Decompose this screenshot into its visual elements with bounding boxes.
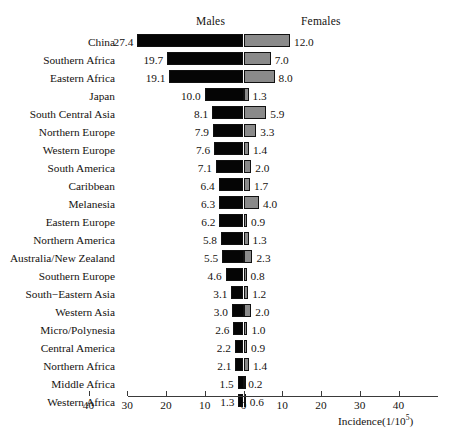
category-label: Micro/Polynesia xyxy=(0,323,115,337)
female-value-label: 8.0 xyxy=(279,71,293,85)
female-value-label: 0.8 xyxy=(251,269,265,283)
axis-title: Incidence(1/105) xyxy=(338,415,413,427)
male-value-label: 8.1 xyxy=(148,107,208,121)
female-bar-segment xyxy=(244,268,247,281)
male-bar-segment xyxy=(219,214,243,227)
bar-row: China27.412.0 xyxy=(0,33,451,51)
male-value-label: 2.6 xyxy=(169,323,229,337)
bar-rows-container: China27.412.0Southern Africa19.77.0Easte… xyxy=(0,33,451,411)
male-bar-segment xyxy=(235,340,244,353)
bar-row: Middle Africa1.50.2 xyxy=(0,375,451,393)
male-bar-segment xyxy=(219,178,244,191)
bar-row: Japan10.01.3 xyxy=(0,87,451,105)
female-value-label: 2.0 xyxy=(255,305,269,319)
female-value-label: 4.0 xyxy=(263,197,277,211)
category-label: Japan xyxy=(0,89,115,103)
male-bar-segment xyxy=(167,52,243,65)
female-bar-segment xyxy=(244,88,249,101)
female-bar-segment xyxy=(244,196,260,209)
category-label: Northern Europe xyxy=(0,125,115,139)
male-bar-segment xyxy=(137,34,243,47)
axis-title-close: ) xyxy=(410,415,414,427)
category-label: South−Eastern Asia xyxy=(0,287,115,301)
category-label: Western Asia xyxy=(0,305,115,319)
bar-row: Australia/New Zealand5.52.3 xyxy=(0,249,451,267)
bar-row: Northern Europe7.93.3 xyxy=(0,123,451,141)
series-header-females: Females xyxy=(301,15,341,27)
bar-row: Central America2.20.9 xyxy=(0,339,451,357)
male-bar-segment xyxy=(213,124,244,137)
male-value-label: 19.1 xyxy=(105,71,165,85)
male-bar-segment xyxy=(232,304,244,317)
bar-row: Southern Africa19.77.0 xyxy=(0,51,451,69)
bar-row: Western Asia3.02.0 xyxy=(0,303,451,321)
female-bar-segment xyxy=(244,214,247,227)
axis-title-exponent: 5 xyxy=(406,413,410,422)
female-value-label: 2.0 xyxy=(255,161,269,175)
female-bar-segment xyxy=(244,142,249,155)
female-value-label: 5.9 xyxy=(270,107,284,121)
category-label: Southern Europe xyxy=(0,269,115,283)
bar-row: Eastern Africa19.18.0 xyxy=(0,69,451,87)
category-label: Australia/New Zealand xyxy=(0,251,115,265)
female-bar-segment xyxy=(244,160,252,173)
incidence-bar-chart: Males Females China27.412.0Southern Afri… xyxy=(0,0,451,441)
female-bar-segment xyxy=(244,178,251,191)
category-label: Northern Africa xyxy=(0,359,115,373)
bar-row: Melanesia6.34.0 xyxy=(0,195,451,213)
female-value-label: 1.4 xyxy=(253,359,267,373)
bar-row: Northern America5.81.3 xyxy=(0,231,451,249)
female-value-label: 1.3 xyxy=(253,89,267,103)
male-bar-segment xyxy=(214,142,243,155)
bar-row: Western Europe7.61.4 xyxy=(0,141,451,159)
male-value-label: 2.1 xyxy=(171,359,231,373)
category-label: Central America xyxy=(0,341,115,355)
female-bar-segment xyxy=(244,322,248,335)
male-bar-segment xyxy=(235,358,243,371)
male-bar-segment xyxy=(216,160,244,173)
male-value-label: 7.9 xyxy=(149,125,209,139)
male-bar-segment xyxy=(226,268,244,281)
female-bar-segment xyxy=(244,286,249,299)
category-label: Western Africa xyxy=(0,395,115,409)
male-bar-segment xyxy=(212,106,243,119)
bar-row: South Central Asia8.15.9 xyxy=(0,105,451,123)
category-label: Middle Africa xyxy=(0,377,115,391)
female-bar-segment xyxy=(244,394,246,407)
male-value-label: 10.0 xyxy=(141,89,201,103)
female-value-label: 0.9 xyxy=(251,341,265,355)
bar-row: Western Africa1.30.6 xyxy=(0,393,451,411)
male-value-label: 3.0 xyxy=(168,305,228,319)
female-value-label: 1.2 xyxy=(252,287,266,301)
female-bar-segment xyxy=(244,340,247,353)
female-bar-segment xyxy=(244,124,257,137)
male-value-label: 1.5 xyxy=(174,377,234,391)
male-value-label: 5.5 xyxy=(158,251,218,265)
female-value-label: 3.3 xyxy=(260,125,274,139)
male-bar-segment xyxy=(222,250,243,263)
female-bar-segment xyxy=(244,304,252,317)
male-value-label: 5.8 xyxy=(157,233,217,247)
female-value-label: 1.7 xyxy=(254,179,268,193)
female-value-label: 7.0 xyxy=(275,53,289,67)
male-value-label: 7.6 xyxy=(150,143,210,157)
female-value-label: 0.2 xyxy=(248,377,262,391)
male-value-label: 2.2 xyxy=(171,341,231,355)
bar-row: Caribbean6.41.7 xyxy=(0,177,451,195)
female-value-label: 0.9 xyxy=(251,215,265,229)
female-value-label: 0.6 xyxy=(250,395,264,409)
female-bar-segment xyxy=(244,250,253,263)
male-bar-segment xyxy=(205,88,244,101)
bar-row: South America7.12.0 xyxy=(0,159,451,177)
male-value-label: 19.7 xyxy=(103,53,163,67)
female-bar-segment xyxy=(244,52,271,65)
category-label: Southern Africa xyxy=(0,53,115,67)
category-label: Western Europe xyxy=(0,143,115,157)
male-bar-segment xyxy=(231,286,243,299)
male-value-label: 1.3 xyxy=(174,395,234,409)
male-bar-segment xyxy=(169,70,243,83)
female-bar-segment xyxy=(244,34,291,47)
bar-row: South−Eastern Asia3.11.2 xyxy=(0,285,451,303)
category-label: Caribbean xyxy=(0,179,115,193)
male-value-label: 3.1 xyxy=(167,287,227,301)
